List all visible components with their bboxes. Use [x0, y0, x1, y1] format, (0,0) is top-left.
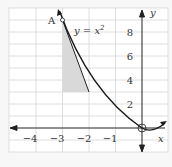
- y-tick-8: 8: [127, 27, 133, 38]
- y-tick-4: 4: [127, 75, 133, 86]
- y-tick-6: 6: [127, 51, 133, 62]
- x-tick-neg2: −2: [77, 133, 92, 144]
- x-axis-label: x: [158, 133, 164, 144]
- x-tick-neg4: −4: [23, 133, 38, 144]
- parabola-diagram: A y = x2 y x 8 6 4 2 −4 −3 −2 −1: [0, 0, 172, 167]
- y-tick-2: 2: [127, 99, 133, 110]
- x-tick-neg1: −1: [103, 133, 118, 144]
- y-axis-label: y: [149, 7, 156, 18]
- point-a-marker: [61, 18, 65, 22]
- x-tick-neg3: −3: [50, 133, 65, 144]
- point-a-label: A: [47, 15, 56, 26]
